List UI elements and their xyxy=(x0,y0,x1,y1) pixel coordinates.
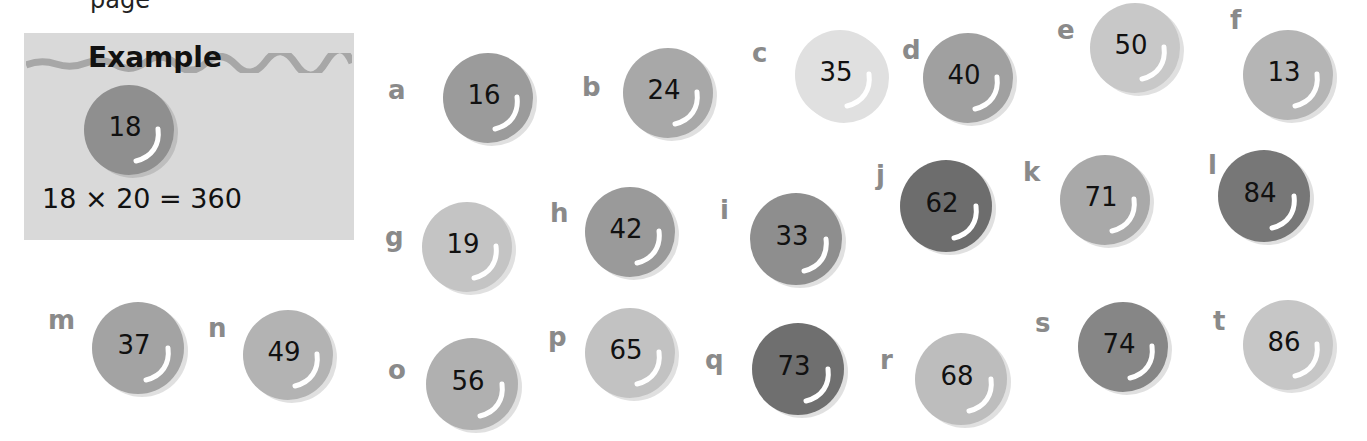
shine-highlight-icon xyxy=(489,93,523,133)
question-label-q: q xyxy=(705,345,724,375)
marble-g: 19 xyxy=(422,202,512,292)
marble-j: 62 xyxy=(900,160,992,252)
page-header-partial-text: page xyxy=(90,0,150,14)
marble-o: 56 xyxy=(426,338,518,430)
shine-highlight-icon xyxy=(140,344,174,384)
example-equation: 18 × 20 = 360 xyxy=(42,183,242,214)
shine-highlight-icon xyxy=(631,348,665,388)
shine-highlight-icon xyxy=(841,70,875,110)
marble-e: 50 xyxy=(1090,3,1180,93)
question-label-j: j xyxy=(876,160,885,190)
shine-highlight-icon xyxy=(798,235,832,275)
marble-s: 74 xyxy=(1078,302,1168,392)
shine-highlight-icon xyxy=(1124,342,1158,382)
question-label-b: b xyxy=(582,72,601,102)
question-label-f: f xyxy=(1230,5,1241,35)
question-label-i: i xyxy=(720,195,729,225)
question-label-k: k xyxy=(1023,157,1040,187)
question-label-l: l xyxy=(1208,150,1217,180)
marble-t: 86 xyxy=(1243,300,1333,390)
marble-c: 35 xyxy=(795,30,885,120)
shine-highlight-icon xyxy=(1106,195,1140,235)
question-label-m: m xyxy=(48,305,75,335)
shine-highlight-icon xyxy=(1289,70,1323,110)
marble-p: 65 xyxy=(585,308,675,398)
question-label-n: n xyxy=(208,313,227,343)
shine-highlight-icon xyxy=(1266,192,1300,232)
marble-q: 73 xyxy=(752,323,844,415)
question-label-a: a xyxy=(388,75,406,105)
question-label-p: p xyxy=(548,322,567,352)
shine-highlight-icon xyxy=(468,242,502,282)
shine-highlight-icon xyxy=(1136,43,1170,83)
question-label-d: d xyxy=(902,35,921,65)
shine-highlight-icon xyxy=(800,365,834,405)
marble-a: 16 xyxy=(443,53,533,143)
shine-highlight-icon xyxy=(130,125,164,165)
question-label-g: g xyxy=(385,222,404,252)
marble-b: 24 xyxy=(623,48,713,138)
marble-k: 71 xyxy=(1060,155,1150,245)
marble-d: 40 xyxy=(923,33,1013,123)
shine-highlight-icon xyxy=(289,350,323,390)
shine-highlight-icon xyxy=(948,202,982,242)
question-label-c: c xyxy=(752,38,767,68)
example-box: Example 18 18 × 20 = 360 xyxy=(24,33,354,240)
marble-l: 84 xyxy=(1218,150,1310,242)
question-label-e: e xyxy=(1057,15,1075,45)
question-label-t: t xyxy=(1213,306,1225,336)
marble-m: 37 xyxy=(92,302,184,394)
marble-n: 49 xyxy=(243,310,333,400)
shine-highlight-icon xyxy=(631,227,665,267)
shine-highlight-icon xyxy=(963,375,997,415)
marble-r: 68 xyxy=(915,333,1007,425)
question-label-h: h xyxy=(550,198,569,228)
marble-f: 13 xyxy=(1243,30,1333,120)
example-title: Example xyxy=(84,41,226,74)
question-label-r: r xyxy=(880,345,893,375)
question-label-o: o xyxy=(388,355,406,385)
shine-highlight-icon xyxy=(1289,340,1323,380)
example-marble: 18 xyxy=(84,85,174,175)
shine-highlight-icon xyxy=(669,88,703,128)
shine-highlight-icon xyxy=(474,380,508,420)
marble-i: 33 xyxy=(750,193,842,285)
shine-highlight-icon xyxy=(969,73,1003,113)
question-label-s: s xyxy=(1035,308,1050,338)
marble-h: 42 xyxy=(585,187,675,277)
